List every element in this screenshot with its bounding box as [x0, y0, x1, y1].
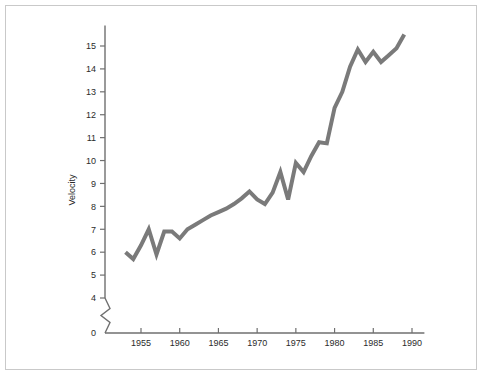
y-tick-label: 13: [86, 87, 96, 97]
x-tick-label: 1980: [325, 338, 345, 348]
x-tick-label: 1970: [247, 338, 267, 348]
y-tick-label: 15: [86, 41, 96, 51]
x-tick-label: 1985: [363, 338, 383, 348]
y-axis-break-zigzag: [101, 298, 110, 333]
x-tick-label: 1955: [131, 338, 151, 348]
velocity-line: [126, 35, 405, 259]
y-axis: 0456789101112131415: [86, 25, 110, 338]
y-tick-label: 0: [91, 328, 96, 338]
x-tick-label: 1990: [402, 338, 422, 348]
x-tick-label: 1965: [208, 338, 228, 348]
chart-figure: 0456789101112131415 19551960196519701975…: [0, 0, 484, 377]
y-tick-label: 9: [91, 179, 96, 189]
y-axis-title: Velocity: [67, 174, 77, 206]
y-tick-label: 7: [91, 225, 96, 235]
x-axis: 19551960196519701975198019851990: [105, 328, 424, 348]
data-series-velocity: [126, 35, 405, 259]
x-tick-label: 1975: [286, 338, 306, 348]
y-tick-label: 10: [86, 156, 96, 166]
y-tick-label: 8: [91, 202, 96, 212]
y-tick-label: 5: [91, 270, 96, 280]
y-tick-label: 14: [86, 64, 96, 74]
y-tick-label: 6: [91, 247, 96, 257]
y-axis-title-text: Velocity: [67, 174, 77, 206]
y-tick-label: 4: [91, 293, 96, 303]
x-tick-label: 1960: [170, 338, 190, 348]
y-tick-label: 12: [86, 110, 96, 120]
line-chart: 0456789101112131415 19551960196519701975…: [0, 0, 484, 377]
y-tick-label: 11: [87, 133, 96, 143]
